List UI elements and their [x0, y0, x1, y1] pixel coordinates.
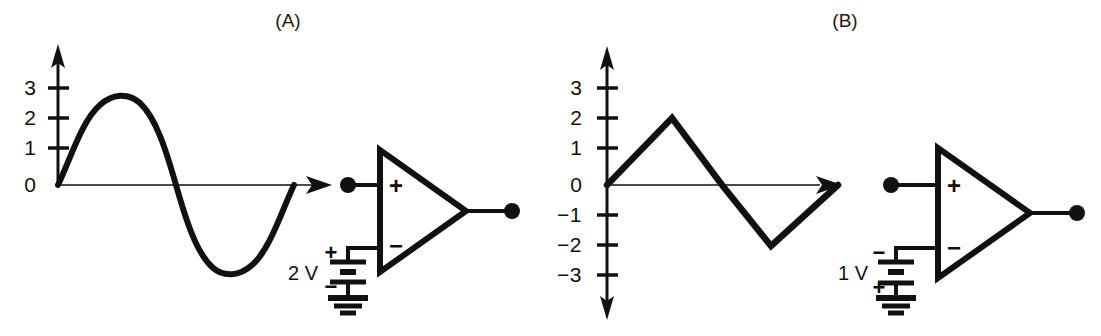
- panel-b-noninverting-sign: +: [947, 174, 961, 198]
- figure-two-comparator-circuits: (A) 3 2 1 0: [0, 0, 1101, 336]
- panel-b-inverting-sign: −: [947, 236, 961, 260]
- panel-b-output-node-dot: [1069, 205, 1085, 221]
- panel-b-source-negative-sign: −: [873, 242, 886, 264]
- panel-b-source-positive-sign: +: [873, 277, 886, 299]
- panel-b-inverting-wire: [896, 248, 938, 260]
- panel-b-ground-symbol: [876, 298, 916, 313]
- panel-b-circuit: [0, 0, 1101, 336]
- panel-b-source-label: 1 V: [838, 262, 868, 285]
